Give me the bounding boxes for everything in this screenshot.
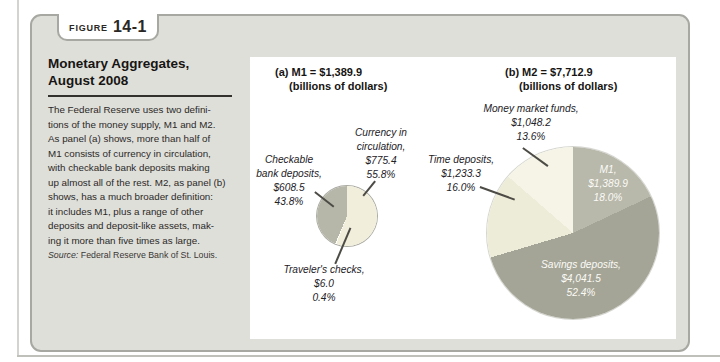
- label-m1-pct: 18.0%: [558, 191, 658, 205]
- label-money-market-funds: Money market funds, $1,048.2 13.6%: [461, 102, 601, 144]
- label-m1-amount: $1,389.9: [558, 177, 658, 191]
- label-travelers-name: Traveler's checks,: [264, 263, 384, 277]
- figure-source: Source: Federal Reserve Bank of St. Loui…: [48, 250, 254, 260]
- panel-b-title: (b) M2 = $7,712.9 (billions of dollars): [505, 65, 617, 93]
- label-mmf-amount: $1,048.2: [461, 116, 601, 130]
- label-savings-amount: $4,041.5: [511, 272, 651, 286]
- label-savings-deposits: Savings deposits, $4,041.5 52.4%: [511, 258, 651, 300]
- label-savings-name: Savings deposits,: [511, 258, 651, 272]
- panel-a-title: (a) M1 = $1,389.9 (billions of dollars): [275, 65, 387, 93]
- figure-tab-label: FIGURE: [69, 21, 108, 33]
- label-m1-slice: M1, $1,389.9 18.0%: [558, 163, 658, 205]
- leader-line-currency: [362, 181, 375, 197]
- label-checkable-name: Checkable bank deposits,: [239, 153, 339, 181]
- label-m1-name: M1,: [558, 163, 658, 177]
- figure-box: FIGURE 14-1 Monetary Aggregates, August …: [30, 14, 690, 352]
- panel-a-title-line1: (a) M1 = $1,389.9: [275, 65, 387, 79]
- figure-tab: FIGURE 14-1: [57, 14, 159, 41]
- label-savings-pct: 52.4%: [511, 286, 651, 300]
- panel-a-title-line2: (billions of dollars): [275, 79, 387, 93]
- page-bottom-rule: [17, 355, 720, 357]
- figure-title: Monetary Aggregates, August 2008: [48, 55, 254, 89]
- label-checkable-deposits: Checkable bank deposits, $608.5 43.8%: [239, 153, 339, 209]
- label-time-name: Time deposits,: [401, 153, 521, 167]
- panel-b-title-line2: (billions of dollars): [505, 79, 617, 93]
- chart-panel: (a) M1 = $1,389.9 (billions of dollars) …: [250, 57, 676, 339]
- source-text: Federal Reserve Bank of St. Louis.: [81, 250, 217, 260]
- figure-caption: The Federal Reserve uses two defini- tio…: [48, 103, 254, 248]
- figure-sidebar: Monetary Aggregates, August 2008 The Fed…: [48, 55, 254, 260]
- label-travelers-checks: Traveler's checks, $6.0 0.4%: [264, 263, 384, 305]
- page-margin-line: [17, 0, 19, 357]
- source-label: Source:: [48, 250, 78, 260]
- label-time-deposits: Time deposits, $1,233.3 16.0%: [401, 153, 521, 195]
- label-mmf-pct: 13.6%: [461, 130, 601, 144]
- label-checkable-amount: $608.5: [239, 181, 339, 195]
- label-travelers-amount: $6.0: [264, 277, 384, 291]
- label-travelers-pct: 0.4%: [264, 291, 384, 305]
- figure-tab-number: 14-1: [113, 18, 147, 36]
- label-mmf-name: Money market funds,: [461, 102, 601, 116]
- panel-b-title-line1: (b) M2 = $7,712.9: [505, 65, 617, 79]
- title-rule: [48, 95, 232, 97]
- label-time-amount: $1,233.3: [401, 167, 521, 181]
- label-time-pct: 16.0%: [401, 181, 521, 195]
- label-currency-name: Currency in circulation,: [331, 126, 431, 154]
